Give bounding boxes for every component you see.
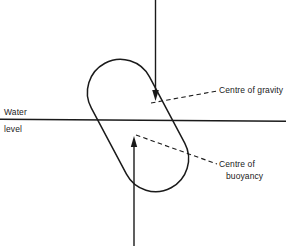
centre-of-buoyancy-label-line2: buoyancy xyxy=(219,170,281,182)
floating-body-diagram xyxy=(0,0,289,246)
floating-body-outline xyxy=(76,48,200,203)
centre-of-buoyancy-label-line1: Centre of xyxy=(219,159,255,169)
water-label: Water xyxy=(4,107,27,118)
water-level-line xyxy=(0,119,286,121)
centre-of-buoyancy-leader xyxy=(136,135,217,164)
level-label: level xyxy=(4,124,22,135)
gravity-force-arrow xyxy=(152,0,159,101)
figure-canvas: Water level Centre of gravity Centre ofb… xyxy=(0,0,289,246)
centre-of-gravity-label: Centre of gravity xyxy=(219,85,283,96)
centre-of-buoyancy-label: Centre ofbuoyancy xyxy=(219,158,281,182)
buoyancy-force-arrow xyxy=(131,136,137,246)
